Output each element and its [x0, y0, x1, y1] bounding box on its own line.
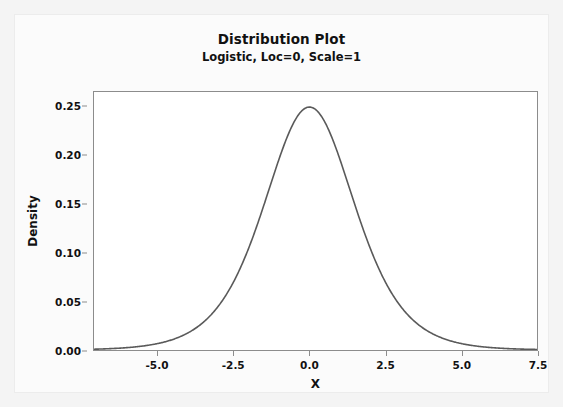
y-axis-tick-mark	[82, 302, 87, 303]
density-curve-path	[94, 107, 537, 349]
y-axis-tick-label: 0.00	[55, 345, 81, 357]
x-axis-tick-mark	[462, 351, 463, 356]
x-axis-tick-label: 7.5	[529, 359, 548, 371]
x-axis-tick-mark	[538, 351, 539, 356]
y-axis-tick-label: 0.20	[55, 149, 81, 161]
y-axis-tick-label: 0.25	[55, 100, 81, 112]
density-curve-svg	[94, 92, 537, 350]
y-axis-tick-mark	[82, 351, 87, 352]
chart-title-block: Distribution Plot Logistic, Loc=0, Scale…	[15, 31, 548, 65]
x-axis-tick-label: -2.5	[222, 359, 245, 371]
y-axis-tick-mark	[82, 155, 87, 156]
y-axis-tick-mark	[82, 204, 87, 205]
y-axis-tick-label: 0.15	[55, 198, 81, 210]
x-axis-tick-label: 5.0	[452, 359, 471, 371]
x-axis-tick-label: 0.0	[300, 359, 319, 371]
y-axis-tick-mark	[82, 106, 87, 107]
y-axis-tick-label: 0.05	[55, 296, 81, 308]
y-axis-tick-mark	[82, 253, 87, 254]
x-axis-label: X	[93, 377, 538, 391]
y-axis-tick-labels: 0.000.050.100.150.200.25	[33, 91, 87, 351]
x-axis-tick-mark	[157, 351, 158, 356]
chart-card: Distribution Plot Logistic, Loc=0, Scale…	[14, 14, 549, 393]
x-axis-tick-mark	[309, 351, 310, 356]
x-axis-tick-mark	[233, 351, 234, 356]
x-axis-tick-labels: -5.0-2.50.02.55.07.5	[93, 351, 538, 377]
y-axis-tick-label: 0.10	[55, 247, 81, 259]
page-title: Distribution Plot	[15, 31, 548, 48]
x-axis-tick-mark	[386, 351, 387, 356]
x-axis-tick-label: 2.5	[376, 359, 395, 371]
plot-area	[93, 91, 538, 351]
x-axis-tick-label: -5.0	[146, 359, 169, 371]
chart-subtitle: Logistic, Loc=0, Scale=1	[15, 49, 548, 65]
